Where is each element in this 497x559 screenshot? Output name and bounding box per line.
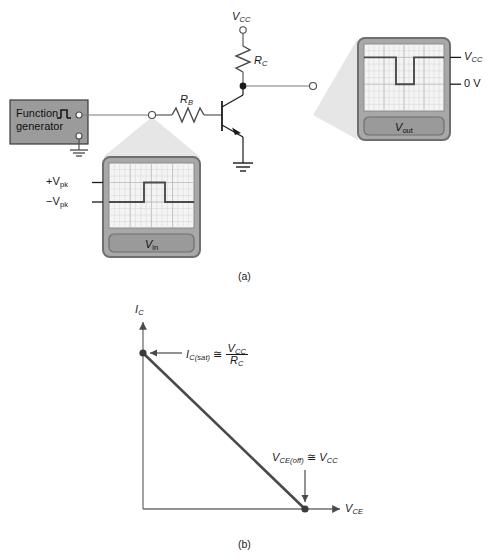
fg-line2: generator <box>16 120 63 132</box>
base-resistor-subscript: B <box>188 98 193 107</box>
panel-b-caption: (b) <box>238 538 251 550</box>
emitter-ground-icon <box>233 163 253 171</box>
collector-resistor-symbol: R <box>254 54 262 66</box>
saturation-point-marker <box>139 349 146 356</box>
supply-terminal <box>240 27 246 33</box>
fg-ground-terminal <box>76 133 82 139</box>
saturation-annotation: IC(sat) ≅ VCC RC <box>186 344 248 367</box>
scope-in-marker-top-text: +V <box>46 175 60 187</box>
cutoff-value-subscript: CC <box>327 456 338 465</box>
saturation-numerator: VCC <box>226 343 248 355</box>
y-axis-label: IC <box>135 304 144 315</box>
fg-line1: Function <box>16 107 58 119</box>
collector-resistor-subscript: C <box>262 59 268 68</box>
scope-out-name: Vout <box>364 121 444 133</box>
supply-voltage-label: VCC <box>232 11 250 22</box>
scope-in-marker-bottom-subscript: pk <box>60 200 68 209</box>
supply-voltage-subscript: CC <box>239 15 250 24</box>
callout-cone-input <box>103 117 200 157</box>
collector-resistor-label: RC <box>254 55 268 66</box>
saturation-numerator-symbol: V <box>228 342 235 354</box>
scope-in-marker-bottom-text: −V <box>46 195 60 207</box>
scope-in-marker-bottom-label: −Vpk <box>46 196 68 207</box>
base-resistor-label: RB <box>180 94 193 105</box>
scope-out-marker-top-subscript: CC <box>471 55 482 64</box>
scope-out-name-subscript: out <box>402 126 412 135</box>
scope-in-name: Vin <box>109 238 194 250</box>
scope-in-marker-top-label: +Vpk <box>46 176 68 187</box>
output-probe-node <box>310 83 317 90</box>
saturation-relation: ≅ <box>213 348 222 360</box>
panel-a-caption: (a) <box>238 270 251 282</box>
scope-out-marker-bottom-label: 0 V <box>464 78 481 89</box>
saturation-subscript: C(sat) <box>189 353 210 362</box>
cutoff-value-symbol: V <box>319 451 326 463</box>
saturation-denominator: RC <box>226 355 248 366</box>
collector-node-dot <box>240 83 247 90</box>
scope-out-marker-top-label: VCC <box>464 51 482 62</box>
base-resistor-symbol: R <box>180 93 188 105</box>
transistor-emitter-lead <box>222 125 243 163</box>
cutoff-subscript: CE(off) <box>279 456 303 465</box>
transistor-collector-lead <box>222 86 243 107</box>
input-probe-node <box>149 112 156 119</box>
function-generator-label: Function generator <box>16 107 63 132</box>
saturation-denominator-subscript: C <box>238 359 244 368</box>
callout-cone-output <box>313 38 358 140</box>
cutoff-point-marker <box>301 505 308 512</box>
collector-resistor-symbol <box>236 33 250 83</box>
scope-in-name-subscript: in <box>152 243 158 252</box>
scope-in-marker-top-subscript: pk <box>60 180 68 189</box>
fg-output-terminal <box>76 112 82 118</box>
saturation-numerator-subscript: CC <box>235 347 246 356</box>
scope-out-marker-ticks <box>450 57 461 84</box>
cutoff-annotation: VCE(off) ≅ VCC <box>272 452 338 463</box>
x-axis-label: VCE <box>345 503 363 514</box>
cutoff-relation: ≅ <box>307 451 316 463</box>
figure-container: Function generator VCC RC RB +Vpk −Vpk V… <box>0 0 497 559</box>
y-axis-label-subscript: C <box>138 308 144 317</box>
load-line <box>143 353 305 509</box>
saturation-fraction: VCC RC <box>226 343 248 366</box>
x-axis-label-subscript: CE <box>352 507 363 516</box>
scope-in-marker-ticks <box>92 183 103 203</box>
base-resistor-symbol <box>172 108 204 122</box>
